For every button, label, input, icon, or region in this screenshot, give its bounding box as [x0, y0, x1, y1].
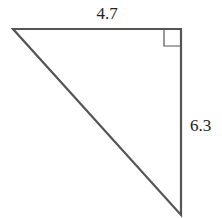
right-angle-marker	[164, 29, 181, 46]
top-side-label: 4.7	[96, 4, 118, 23]
triangle-shape	[13, 29, 181, 215]
triangle-diagram: 4.7 6.3	[0, 0, 222, 218]
right-side-label: 6.3	[190, 116, 211, 135]
